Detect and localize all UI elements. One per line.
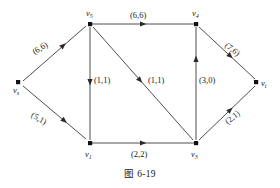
edge-label-vs-v1: (5,1) — [30, 111, 48, 127]
figure-container: vs v5 v4 vt v1 v3 (6,6) (5,1) (6,6) (1,1… — [0, 0, 280, 188]
vertex-label-vt: vt — [261, 79, 266, 88]
edge-label-v5-v1: (1,1) — [94, 76, 110, 85]
vertex-label-v4: v4 — [192, 9, 199, 18]
edge-label-v3-vt: (2,1) — [223, 109, 241, 126]
edge-label-v5-v4: (6,6) — [130, 11, 146, 20]
edge-label-v5-v3: (1,1) — [148, 76, 164, 85]
label-layer: vs v5 v4 vt v1 v3 (6,6) (5,1) (6,6) (1,1… — [0, 0, 280, 188]
vertex-label-vs: vs — [13, 86, 19, 95]
edge-label-vs-v5: (6,6) — [31, 40, 49, 56]
edge-label-v1-v3: (2,2) — [131, 150, 147, 159]
vertex-label-v1: v1 — [85, 150, 92, 159]
vertex-label-v5: v5 — [86, 9, 93, 18]
figure-caption: 图 6-19 — [0, 166, 280, 180]
edge-label-v3-v4: (3,0) — [199, 76, 215, 85]
edge-label-v4-vt: (7,6) — [223, 41, 241, 58]
vertex-label-v3: v3 — [191, 150, 198, 159]
